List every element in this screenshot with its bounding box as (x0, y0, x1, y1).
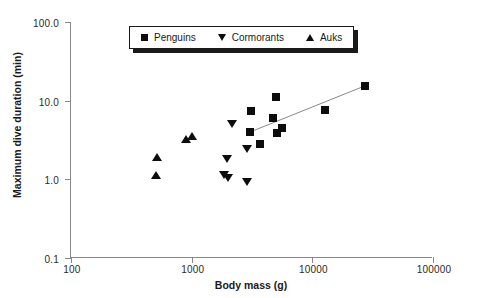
data-point-penguins (272, 93, 280, 101)
y-axis-tick-label-10: 10.0 (39, 96, 59, 107)
data-point-auks (151, 171, 161, 179)
legend-label-cormorants: Cormorants (232, 32, 284, 43)
data-point-penguins (278, 124, 286, 132)
y-axis-tick-10: 10.0 (65, 101, 71, 102)
legend: Penguins Cormorants Auks (129, 26, 354, 49)
y-axis-tick-label-1: 1.0 (44, 175, 59, 186)
data-point-cormorants (242, 145, 252, 153)
data-point-penguins (246, 128, 254, 136)
data-point-cormorants (242, 178, 252, 186)
x-axis-tick-label-1000: 1000 (181, 264, 204, 275)
data-point-cormorants (223, 174, 233, 182)
x-axis-tick-1000: 1000 (192, 257, 193, 263)
square-marker-icon (141, 34, 148, 41)
trendline (71, 22, 433, 258)
legend-entry-penguins: Penguins (141, 32, 196, 43)
data-point-auks (187, 132, 197, 140)
data-point-auks (152, 153, 162, 161)
y-axis-tick-label-100: 100.0 (33, 18, 59, 29)
data-point-cormorants (227, 120, 237, 128)
y-axis-tick-label-0-1: 0.1 (44, 254, 59, 265)
x-axis-tick-10000: 10000 (312, 257, 313, 263)
triangle-up-marker-icon (306, 34, 314, 41)
x-axis-tick-label-10000: 10000 (299, 264, 328, 275)
triangle-down-marker-icon (218, 34, 226, 41)
y-axis-tick-1: 1.0 (65, 179, 71, 180)
legend-label-auks: Auks (320, 32, 342, 43)
y-axis-title: Maximum dive duration (min) (11, 20, 23, 230)
data-point-penguins (247, 107, 255, 115)
legend-entry-cormorants: Cormorants (218, 32, 284, 43)
data-point-penguins (361, 82, 369, 90)
scatter-plot-figure: 100.0 10.0 1.0 0.1 100 1000 10000 100000 (0, 0, 481, 298)
y-axis-tick-100: 100.0 (65, 22, 71, 23)
x-axis-tick-label-100000: 100000 (417, 264, 452, 275)
data-point-penguins (321, 106, 329, 114)
x-axis-tick-label-100: 100 (63, 264, 80, 275)
plot-area: 100.0 10.0 1.0 0.1 100 1000 10000 100000 (70, 22, 432, 258)
data-point-penguins (256, 140, 264, 148)
x-axis-title: Body mass (g) (70, 279, 432, 291)
x-axis-tick-100000: 100000 (433, 257, 434, 263)
legend-label-penguins: Penguins (154, 32, 196, 43)
data-point-cormorants (222, 155, 232, 163)
data-point-penguins (269, 114, 277, 122)
legend-entry-auks: Auks (306, 32, 342, 43)
x-axis-tick-100: 100 (71, 257, 72, 263)
